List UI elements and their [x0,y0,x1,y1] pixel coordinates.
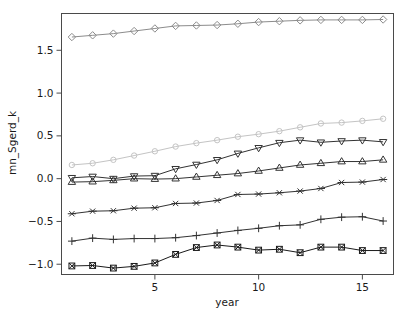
chart-container: −1.0−0.50.00.51.01.5 51015 mn_Sgerd_k ye… [0,0,409,318]
y-tick-label: 0.5 [37,129,54,141]
x-tick-label: 15 [356,281,369,293]
line-chart-plot: −1.0−0.50.00.51.01.5 51015 mn_Sgerd_k ye… [0,0,409,318]
y-tick-label: 1.0 [37,87,54,99]
x-axis-title: year [215,296,239,308]
y-axis-title: mn_Sgerd_k [6,110,19,175]
x-tick-label: 5 [152,281,159,293]
y-tick-label: −1.0 [28,258,54,270]
y-tick-label: 0.0 [37,172,54,184]
x-tick-label: 10 [252,281,265,293]
y-tick-label: 1.5 [37,44,54,56]
y-tick-label: −0.5 [28,215,54,227]
